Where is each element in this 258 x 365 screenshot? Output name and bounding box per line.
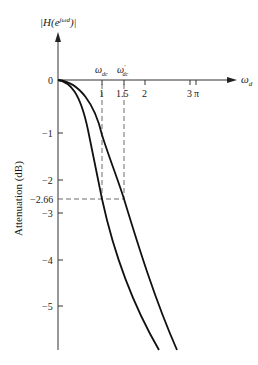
y-tick-m4: −4 <box>42 255 53 266</box>
x-tick-2: 2 <box>142 88 147 99</box>
y-tick-m266: −2.66 <box>30 194 53 205</box>
magnitude-axis-label: |H(ejωd)| <box>40 16 77 29</box>
wdc-label: ωdc <box>95 64 108 77</box>
x-tick-1-5: 1.5 <box>116 88 129 99</box>
y-tick-m1: −1 <box>42 128 53 139</box>
x-ticks <box>102 80 196 85</box>
inner-curve <box>58 80 159 350</box>
x-tick-pi: π <box>194 88 199 99</box>
x-tick-1: 1 <box>99 88 104 99</box>
origin-label: 0 <box>48 75 53 86</box>
y-axis-label: Attenuation (dB) <box>12 161 25 236</box>
outer-curve <box>58 80 177 350</box>
x-axis-label: ωd <box>241 73 253 88</box>
x-tick-3: 3 <box>187 88 192 99</box>
y-tick-m5: −5 <box>42 301 53 312</box>
y-axis-arrow-icon <box>55 32 61 42</box>
y-tick-m3: −3 <box>42 208 53 219</box>
y-ticks <box>58 133 63 306</box>
attenuation-chart: |H(ejωd)| ωd 0 1 1.5 2 3 π ωdc ω′dc −1 −… <box>0 0 258 365</box>
wdc-prime-label: ω′dc <box>117 64 128 77</box>
y-tick-m2: −2 <box>42 175 53 186</box>
x-axis-arrow-icon <box>227 77 237 83</box>
